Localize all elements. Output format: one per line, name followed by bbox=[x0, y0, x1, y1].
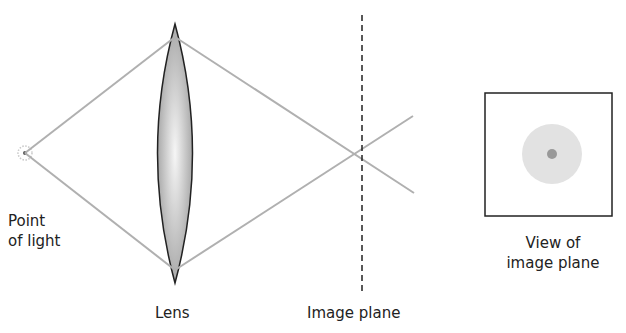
image-plane-label: Image plane bbox=[307, 303, 400, 323]
label-line: Point bbox=[8, 211, 60, 231]
point-of-light-label: Point of light bbox=[8, 211, 60, 251]
lens-shape bbox=[158, 24, 193, 283]
lens-diagram bbox=[0, 0, 626, 333]
label-line: image plane bbox=[495, 253, 611, 273]
light-rays bbox=[25, 37, 414, 270]
image-plane-view bbox=[485, 93, 612, 216]
lens-label: Lens bbox=[155, 303, 190, 323]
view-of-image-plane-label: View of image plane bbox=[495, 233, 611, 273]
label-line: of light bbox=[8, 231, 60, 251]
focus-dot bbox=[547, 149, 557, 159]
label-line: View of bbox=[495, 233, 611, 253]
